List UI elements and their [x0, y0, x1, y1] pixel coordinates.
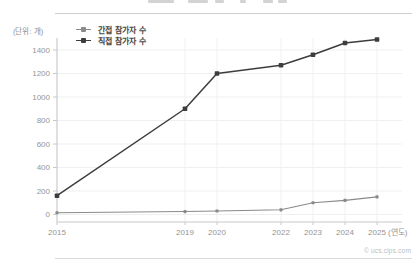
x-tick-label: 2015 [48, 228, 66, 237]
series-point-marker [279, 208, 282, 211]
series-point-marker [55, 211, 58, 214]
series-point-marker [183, 210, 186, 213]
series-point-marker [215, 209, 218, 212]
series-point-marker [183, 106, 188, 111]
watermark: © ucs.cips.com [364, 247, 411, 254]
y-tick-label: 800 [37, 116, 51, 125]
x-tick-label: 2025 [368, 228, 386, 237]
y-tick-label: 1200 [32, 69, 50, 78]
series-point-marker [375, 37, 380, 42]
series-point-marker [311, 52, 316, 57]
y-tick-label: 200 [37, 187, 51, 196]
series-point-marker [215, 71, 220, 76]
series-point-marker [279, 63, 284, 68]
y-tick-label: 1400 [32, 46, 50, 55]
x-tick-label: 2023 [304, 228, 322, 237]
series-point-marker [343, 199, 346, 202]
x-tick-label: 2022 [272, 228, 290, 237]
y-tick-label: 600 [37, 140, 51, 149]
series-point-marker [375, 195, 378, 198]
series-point-marker [311, 201, 314, 204]
y-tick-label: 0 [46, 210, 51, 219]
x-tick-label: 2024 [336, 228, 354, 237]
series-point-marker [343, 41, 348, 46]
x-axis-unit-label: (연도) [388, 228, 408, 237]
series-point-marker [55, 193, 60, 198]
y-tick-label: 400 [37, 163, 51, 172]
bottom-divider [55, 258, 412, 259]
chart-svg: 0200400600800100012001400201520192020202… [0, 0, 418, 273]
x-tick-label: 2020 [208, 228, 226, 237]
x-tick-label: 2019 [176, 228, 194, 237]
y-tick-label: 1000 [32, 93, 50, 102]
chart-card: (단위: 개) 간접 참가자 수직접 참가자 수 020040060080010… [0, 0, 418, 273]
